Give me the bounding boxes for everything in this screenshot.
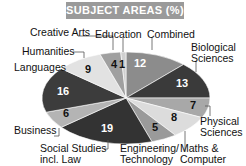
value-education: 1 bbox=[119, 58, 125, 70]
label-social-2: incl. Law bbox=[40, 153, 81, 165]
value-physical: 7 bbox=[190, 99, 196, 111]
value-engineering: 5 bbox=[152, 121, 158, 133]
pie-slices bbox=[42, 52, 210, 144]
value-creative-arts: 4 bbox=[111, 58, 118, 70]
value-social: 19 bbox=[101, 122, 113, 134]
value-languages: 16 bbox=[57, 85, 69, 97]
label-engineering-2: Technology bbox=[120, 153, 174, 165]
label-maths-2: Computer bbox=[180, 153, 227, 165]
value-biological: 13 bbox=[176, 77, 188, 89]
pie-chart: Creative Arts Education Combined Humanit… bbox=[0, 0, 246, 166]
label-biological-2: Sciences bbox=[191, 52, 234, 64]
value-maths: 8 bbox=[171, 111, 177, 123]
label-combined: Combined bbox=[147, 28, 195, 40]
label-humanities: Humanities bbox=[22, 45, 75, 57]
label-languages: Languages bbox=[14, 61, 66, 73]
value-business: 6 bbox=[63, 107, 69, 119]
label-creative-arts: Creative Arts bbox=[30, 26, 90, 38]
label-education: Education bbox=[95, 28, 142, 40]
label-physical-2: Sciences bbox=[200, 126, 243, 138]
label-business: Business bbox=[14, 124, 57, 136]
value-humanities: 9 bbox=[85, 63, 91, 75]
value-combined: 12 bbox=[134, 57, 146, 69]
